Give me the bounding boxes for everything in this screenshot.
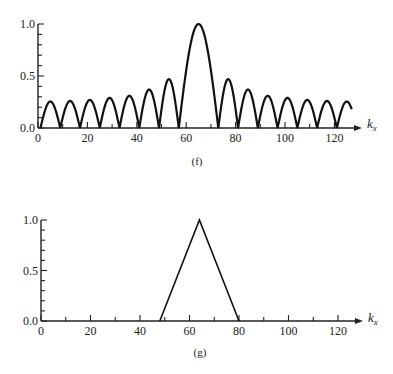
x-tick-label: 80 xyxy=(230,131,242,145)
y-tick-labels-f: 0.00.51.0 xyxy=(20,17,35,135)
y-tick-label: 1.0 xyxy=(23,213,38,227)
caption-g: (g) xyxy=(194,346,207,359)
y-tick-label: 0.0 xyxy=(23,314,38,328)
x-tick-label: 20 xyxy=(81,131,93,145)
y-tick-label: 0.5 xyxy=(23,264,38,278)
x-axis-arrow-icon-f xyxy=(354,125,362,131)
axis-ticks-g xyxy=(41,220,338,321)
x-tick-label: 80 xyxy=(233,324,245,338)
x-tick-label: 60 xyxy=(180,131,192,145)
y-tick-label: 1.0 xyxy=(20,17,35,31)
x-tick-label: 40 xyxy=(131,131,143,145)
caption-f: (f) xyxy=(192,155,203,168)
chart-panel-f: 0.00.51.0 020406080100120 kx (f) xyxy=(20,17,377,168)
x-axis-label-g: kx xyxy=(368,310,378,327)
x-tick-label: 60 xyxy=(184,324,196,338)
chart-panel-g: 0.00.51.0 020406080100120 kx (g) xyxy=(23,213,378,359)
y-tick-label: 0.5 xyxy=(20,69,35,83)
y-tick-label: 0.0 xyxy=(20,121,35,135)
figure: 0.00.51.0 020406080100120 kx (f) 0.00.51… xyxy=(0,0,393,374)
x-tick-label: 120 xyxy=(325,131,343,145)
x-axis-arrow-icon-g xyxy=(355,318,363,324)
x-tick-label: 0 xyxy=(35,131,41,145)
y-tick-labels-g: 0.00.51.0 xyxy=(23,213,38,328)
x-axis-label-f: kx xyxy=(367,116,377,133)
x-tick-label: 120 xyxy=(329,324,347,338)
data-series-f xyxy=(40,24,351,128)
figure-canvas: 0.00.51.0 020406080100120 kx (f) 0.00.51… xyxy=(0,0,393,374)
x-tick-label: 100 xyxy=(276,131,294,145)
x-tick-label: 0 xyxy=(38,324,44,338)
x-tick-label: 20 xyxy=(85,324,97,338)
x-tick-label: 40 xyxy=(134,324,146,338)
data-series-g xyxy=(160,220,239,321)
x-tick-label: 100 xyxy=(280,324,298,338)
x-tick-labels-f: 020406080100120 xyxy=(35,131,343,145)
x-tick-labels-g: 020406080100120 xyxy=(38,324,347,338)
